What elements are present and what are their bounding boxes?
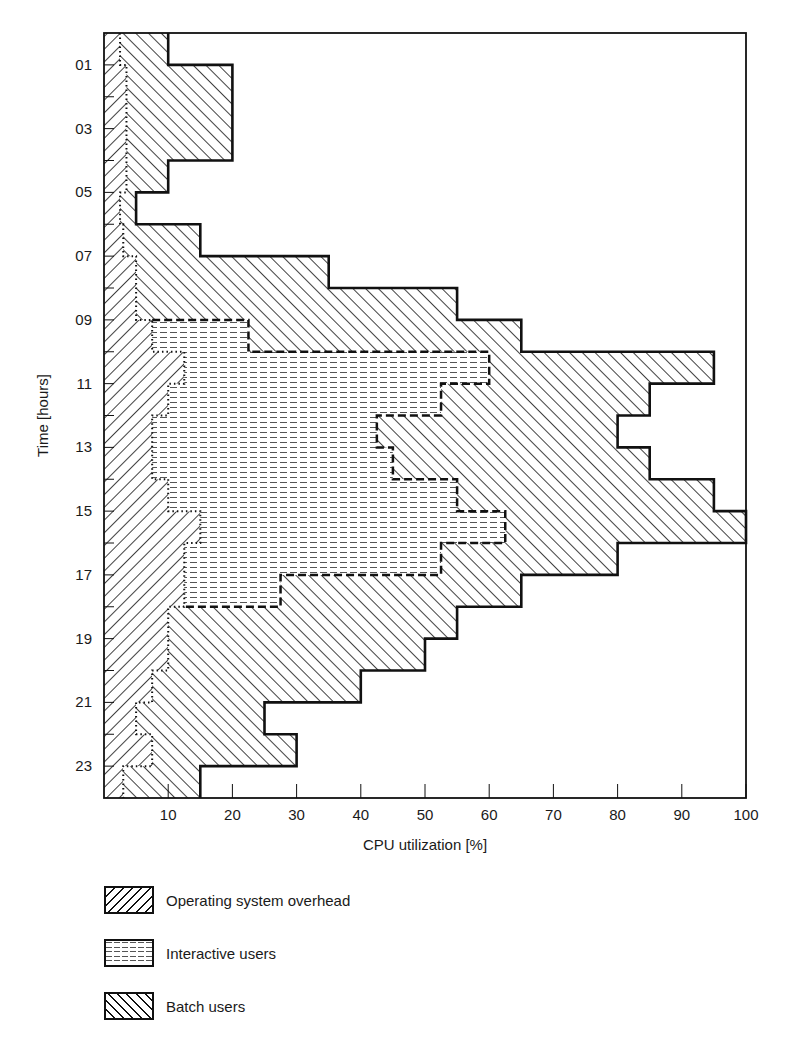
legend-item-batch-users: Batch users [104, 991, 350, 1021]
svg-text:80: 80 [609, 806, 626, 823]
legend-label: Batch users [166, 998, 245, 1015]
svg-text:21: 21 [75, 693, 92, 710]
cpu-utilization-chart: 0103050709111315171921231020304050607080… [0, 0, 799, 880]
legend-label: Operating system overhead [166, 892, 350, 909]
legend-label: Interactive users [166, 945, 276, 962]
os-overhead-swatch-icon [104, 886, 154, 914]
svg-text:40: 40 [352, 806, 369, 823]
svg-text:17: 17 [75, 566, 92, 583]
svg-text:23: 23 [75, 757, 92, 774]
svg-text:70: 70 [545, 806, 562, 823]
legend-item-os-overhead: Operating system overhead [104, 885, 350, 915]
svg-text:90: 90 [673, 806, 690, 823]
svg-text:01: 01 [75, 56, 92, 73]
svg-text:20: 20 [224, 806, 241, 823]
svg-text:09: 09 [75, 311, 92, 328]
x-axis-title: CPU utilization [%] [363, 836, 487, 853]
svg-text:03: 03 [75, 120, 92, 137]
svg-text:30: 30 [288, 806, 305, 823]
interactive-users-swatch-icon [104, 939, 154, 967]
y-axis-title: Time [hours] [34, 374, 51, 457]
svg-text:13: 13 [75, 438, 92, 455]
batch-users-swatch-icon [104, 992, 154, 1020]
plot-area [104, 33, 746, 798]
svg-text:50: 50 [417, 806, 434, 823]
svg-text:15: 15 [75, 502, 92, 519]
svg-text:60: 60 [481, 806, 498, 823]
legend-item-interactive-users: Interactive users [104, 938, 350, 968]
svg-text:10: 10 [160, 806, 177, 823]
svg-text:19: 19 [75, 630, 92, 647]
svg-text:05: 05 [75, 183, 92, 200]
svg-text:07: 07 [75, 247, 92, 264]
svg-text:100: 100 [733, 806, 758, 823]
legend: Operating system overhead Interactive us… [104, 885, 350, 1044]
svg-text:11: 11 [76, 375, 92, 392]
